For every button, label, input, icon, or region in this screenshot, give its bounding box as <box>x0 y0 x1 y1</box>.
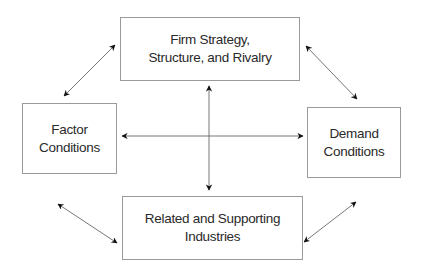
porter-diamond-diagram: Firm Strategy, Structure, and Rivalry Fa… <box>0 0 423 274</box>
node-firm-strategy: Firm Strategy, Structure, and Rivalry <box>120 17 300 81</box>
node-firm-strategy-line2: Structure, and Rivalry <box>148 49 271 67</box>
node-related-supporting-line1: Related and Supporting <box>145 210 280 228</box>
node-demand-conditions-line1: Demand <box>324 125 385 143</box>
arrow-factor-firm <box>64 45 115 96</box>
node-firm-strategy-line1: Firm Strategy, <box>148 31 271 49</box>
arrow-firm-demand <box>306 46 357 99</box>
node-factor-conditions-line1: Factor <box>39 121 100 139</box>
node-demand-conditions: Demand Conditions <box>307 107 401 178</box>
arrow-factor-related <box>58 204 117 243</box>
node-demand-conditions-line2: Conditions <box>324 143 385 161</box>
node-related-supporting-line2: Industries <box>145 228 280 246</box>
node-related-supporting: Related and Supporting Industries <box>122 196 303 260</box>
node-factor-conditions-line2: Conditions <box>39 139 100 157</box>
arrow-demand-related <box>304 202 356 242</box>
node-factor-conditions: Factor Conditions <box>22 103 117 174</box>
